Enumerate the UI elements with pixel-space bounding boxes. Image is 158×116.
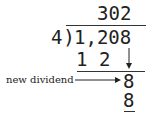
quotient: 302: [97, 4, 131, 23]
pointer-arrow-icon: [75, 75, 123, 85]
divisor: 4: [51, 28, 62, 47]
dividend: 1,208: [74, 28, 131, 47]
second-product: 8: [123, 91, 134, 110]
subtraction-line: [77, 71, 145, 72]
bring-down-arrow-icon: [124, 48, 134, 70]
final-subtraction-line: [124, 111, 135, 112]
first-product: 1 2: [76, 50, 110, 69]
new-dividend-label: new dividend: [6, 75, 74, 85]
